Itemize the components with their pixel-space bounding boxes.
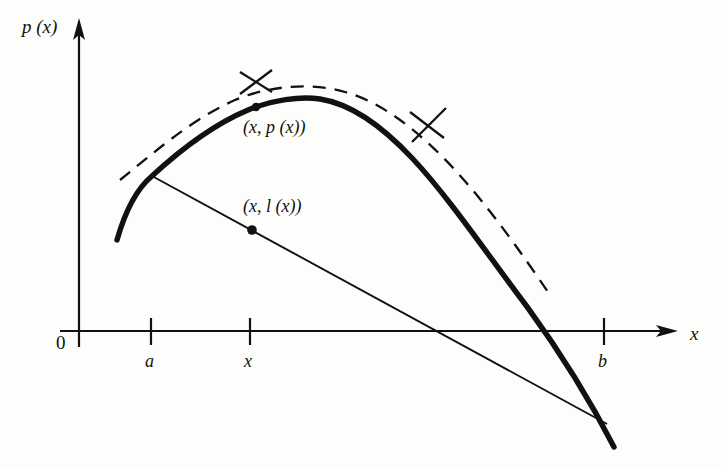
y-axis-label: p (x) [20, 16, 57, 38]
curve-point-label: (x, p (x)) [243, 117, 305, 138]
dashed-guide-line [120, 86, 548, 292]
x-tick-label-x: x [243, 351, 252, 371]
secant-line [152, 176, 607, 424]
origin-label: 0 [56, 332, 66, 353]
curve-point-marker [252, 103, 260, 111]
axis-group [60, 18, 678, 347]
cross-mark-left [240, 70, 272, 94]
math-figure: p (x) x 0 a x b (x, p (x)) (x, l (x)) [0, 0, 721, 467]
cross-mark-right [410, 108, 446, 142]
polynomial-curve [117, 98, 614, 447]
line-point-marker [247, 225, 257, 235]
line-point-label: (x, l (x)) [243, 196, 301, 217]
figure-container: p (x) x 0 a x b (x, p (x)) (x, l (x)) [0, 0, 721, 467]
x-tick-label-b: b [598, 351, 607, 371]
x-axis-label: x [689, 323, 699, 344]
x-tick-label-a: a [145, 351, 154, 371]
